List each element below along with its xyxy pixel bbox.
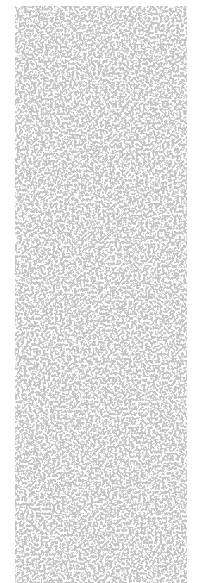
image-canvas	[0, 0, 215, 583]
noise-texture-swatch	[15, 6, 187, 583]
noise-texture-graphic	[15, 6, 187, 583]
